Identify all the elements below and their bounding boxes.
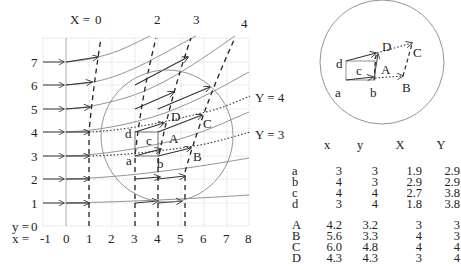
- x-tick-8: 8: [245, 231, 252, 246]
- y-tick-5: 5: [31, 102, 38, 117]
- Y-iso-curves: [89, 96, 250, 156]
- x-tick-1: 1: [86, 231, 93, 246]
- x-tick-5: 5: [177, 231, 184, 246]
- inset-c-label: c: [356, 63, 362, 78]
- row-name: d: [292, 199, 312, 210]
- row-name: D: [292, 253, 312, 264]
- x-axis-label: x =: [12, 231, 29, 246]
- x-tick-0: 0: [63, 231, 70, 246]
- X-label-2: 2: [154, 12, 161, 27]
- inset-zoom: d c a b A B C D: [320, 0, 444, 124]
- point-d-label: d: [125, 126, 132, 141]
- inflow-arrows: [43, 62, 64, 203]
- y-tick-6: 6: [31, 78, 38, 93]
- inset-d-label: d: [336, 56, 343, 71]
- x-tick-7: 7: [223, 231, 230, 246]
- table-header: x y X Y: [292, 140, 460, 156]
- inset-a-label: a: [335, 85, 341, 100]
- cell-y: 4.3: [342, 253, 378, 264]
- x-tick-3: 3: [131, 231, 138, 246]
- header-y: y: [342, 140, 378, 156]
- x-tick-2: 2: [108, 231, 115, 246]
- cell-Y: 3.8: [422, 199, 460, 210]
- X-label-4: 4: [241, 16, 248, 31]
- cell-X: 1.8: [378, 199, 422, 210]
- y-tick-1: 1: [31, 196, 38, 211]
- point-C-label: C: [203, 116, 212, 131]
- point-D-label: D: [171, 109, 180, 124]
- y-tick-3: 3: [31, 149, 38, 164]
- cell-x: 3: [312, 199, 342, 210]
- inset-B-label: B: [402, 80, 411, 95]
- cell-X: 3: [378, 253, 422, 264]
- cell-Y: 4: [422, 253, 460, 264]
- point-b-label: b: [157, 156, 164, 171]
- X-prefix-label: X =: [70, 12, 90, 27]
- Y4-label: Y = 4: [255, 90, 285, 105]
- x-tick-6: 6: [200, 231, 207, 246]
- header-x: x: [312, 140, 342, 156]
- x-tick-4: 4: [154, 231, 161, 246]
- point-B-label: B: [193, 149, 202, 164]
- point-c-label: c: [146, 133, 152, 148]
- table-row: D 4.3 4.3 3 4: [292, 253, 460, 264]
- header-X: X: [378, 140, 422, 156]
- header-Y: Y: [422, 140, 460, 156]
- y-tick-0: 0: [31, 219, 38, 234]
- zoom-circle: [101, 70, 233, 202]
- X-label-0: 0: [95, 12, 102, 27]
- inset-C-label: C: [413, 45, 422, 60]
- X-label-3: 3: [193, 12, 200, 27]
- inset-b-label: b: [370, 85, 377, 100]
- header-blank: [292, 140, 312, 156]
- y-tick-4: 4: [31, 125, 38, 140]
- coordinates-table: x y X Y a 3 3 1.9 2.9 b 4 3 2.9 2.9 c 4 …: [292, 140, 460, 264]
- cell-y: 4: [342, 199, 378, 210]
- Y3-label: Y = 3: [255, 127, 284, 142]
- inset-D-label: D: [382, 39, 391, 54]
- table-row: d 3 4 1.8 3.8: [292, 199, 460, 210]
- x-tick--1: -1: [40, 231, 51, 246]
- left-plot: X = 0 2 3 4 7 6 5 4 3 2 1 y = 0 x = -1 0…: [12, 12, 285, 246]
- cell-x: 4.3: [312, 253, 342, 264]
- y-tick-7: 7: [31, 55, 38, 70]
- inset-A-label: A: [381, 62, 391, 77]
- point-A-label: A: [169, 131, 179, 146]
- point-a-label: a: [126, 153, 132, 168]
- displacement-arrows: [66, 57, 210, 203]
- y-tick-2: 2: [31, 172, 38, 187]
